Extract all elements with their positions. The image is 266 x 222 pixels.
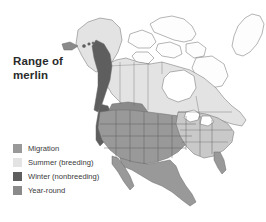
merlin-range-map-figure: Range of merlin Migration Summer (breedi… bbox=[0, 0, 266, 222]
legend-label-summer-breeding: Summer (breeding) bbox=[28, 158, 93, 167]
aleutian-dot-3 bbox=[92, 42, 94, 44]
legend-item-year-round: Year-round bbox=[13, 183, 99, 197]
aleutian-dot-2 bbox=[88, 43, 91, 46]
map-legend: Migration Summer (breeding) Winter (nonb… bbox=[13, 141, 99, 197]
aleutian-dot-1 bbox=[82, 44, 85, 47]
legend-swatch-migration bbox=[13, 144, 22, 153]
legend-item-winter-nonbreeding: Winter (nonbreeding) bbox=[13, 169, 99, 183]
title-line-1: Range of bbox=[13, 54, 105, 68]
title-line-2: merlin bbox=[13, 68, 105, 82]
legend-label-migration: Migration bbox=[28, 144, 59, 153]
legend-swatch-year-round bbox=[13, 186, 22, 195]
legend-label-year-round: Year-round bbox=[28, 186, 65, 195]
legend-label-winter-nonbreeding: Winter (nonbreeding) bbox=[28, 172, 99, 181]
legend-swatch-winter-nonbreeding bbox=[13, 172, 22, 181]
legend-item-summer-breeding: Summer (breeding) bbox=[13, 155, 99, 169]
legend-item-migration: Migration bbox=[13, 141, 99, 155]
page-title: Range of merlin bbox=[13, 54, 105, 82]
legend-swatch-summer-breeding bbox=[13, 158, 22, 167]
